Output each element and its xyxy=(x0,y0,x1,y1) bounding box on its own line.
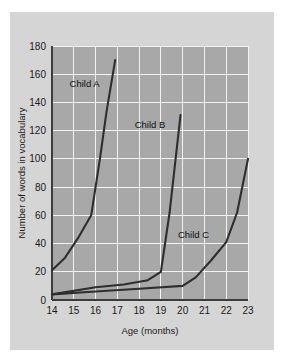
y-axis-tick-label: 0 xyxy=(40,295,46,306)
x-axis-tick-label: 14 xyxy=(46,305,58,316)
y-axis-tick-labels-group: 020406080100120140160180 xyxy=(29,41,46,306)
y-axis-tick-label: 60 xyxy=(35,210,47,221)
y-axis-tick-label: 120 xyxy=(29,125,46,136)
x-axis-tick-label: 23 xyxy=(242,305,254,316)
y-axis-tick-label: 160 xyxy=(29,69,46,80)
x-axis-tick-label: 19 xyxy=(155,305,167,316)
vocabulary-growth-line-chart: 020406080100120140160180 141516171819202… xyxy=(0,0,284,363)
y-axis-tick-label: 100 xyxy=(29,153,46,164)
series-label-child-b: Child B xyxy=(135,119,166,130)
y-axis-tick-label: 40 xyxy=(35,238,47,249)
y-axis-tick-label: 180 xyxy=(29,41,46,52)
series-label-child-a: Child A xyxy=(70,78,101,89)
y-axis-tick-label: 20 xyxy=(35,266,47,277)
x-axis-tick-labels-group: 14151617181920212223 xyxy=(46,305,254,316)
y-axis-title: Number of words in vocabulary xyxy=(16,107,27,238)
x-axis-tick-label: 20 xyxy=(177,305,189,316)
x-axis-tick-label: 17 xyxy=(112,305,124,316)
x-axis-title: Age (months) xyxy=(121,325,178,336)
y-axis-tick-label: 80 xyxy=(35,182,47,193)
y-axis-tick-label: 140 xyxy=(29,97,46,108)
x-axis-tick-label: 15 xyxy=(68,305,80,316)
x-axis-tick-label: 16 xyxy=(90,305,102,316)
x-axis-tick-label: 21 xyxy=(199,305,211,316)
x-axis-tick-label: 22 xyxy=(221,305,233,316)
x-axis-tick-label: 18 xyxy=(134,305,146,316)
figure-root: 020406080100120140160180 141516171819202… xyxy=(0,0,284,363)
series-label-child-c: Child C xyxy=(178,229,209,240)
